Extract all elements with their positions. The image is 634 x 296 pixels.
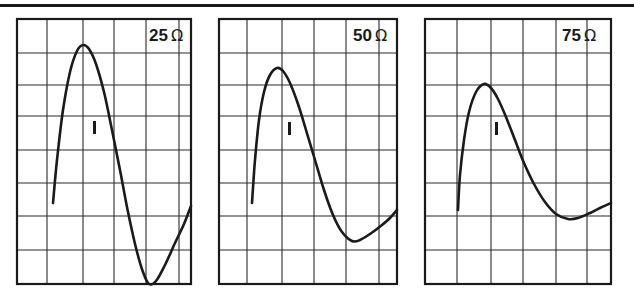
ohm-symbol: Ω <box>375 26 387 45</box>
resistance-label-25: 25Ω <box>149 27 183 44</box>
current-marker-i <box>288 122 291 135</box>
ohm-symbol: Ω <box>171 26 183 45</box>
scope-panel-25 <box>17 19 191 285</box>
waveform-trace <box>53 45 191 285</box>
current-marker-i <box>93 121 96 134</box>
scope-panel-75 <box>425 19 611 284</box>
resistance-label-75: 75Ω <box>562 27 596 44</box>
panel-frame <box>17 19 191 284</box>
resistance-label-50: 50Ω <box>353 27 387 44</box>
ohm-symbol: Ω <box>584 26 596 45</box>
resistance-value: 75 <box>562 26 581 45</box>
oscilloscope-traces <box>0 0 634 296</box>
current-marker-i <box>495 122 498 135</box>
resistance-value: 50 <box>353 26 372 45</box>
panel-frame <box>219 19 397 284</box>
waveform-trace <box>458 84 611 219</box>
scope-panel-50 <box>219 19 397 284</box>
resistance-value: 25 <box>149 26 168 45</box>
